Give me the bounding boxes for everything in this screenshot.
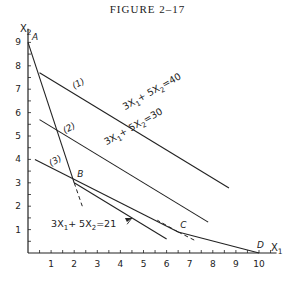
point-label-a: A [31, 32, 38, 42]
x-tick-label: 3 [94, 259, 100, 269]
y-tick-label: 1 [15, 225, 21, 235]
x-tick-label: 7 [187, 259, 193, 269]
equation-label: 3X1+ 5X2=21 [51, 218, 116, 232]
x-tick-label: 8 [210, 259, 216, 269]
y-tick-label: 2 [15, 201, 21, 211]
x-tick-label: 6 [164, 259, 170, 269]
y-tick-label: 3 [15, 178, 21, 188]
x-tick-label: 4 [118, 259, 124, 269]
constraint-number-label: (1) [70, 76, 86, 91]
x-axis-label: X1 [271, 242, 283, 256]
y-tick-label: 8 [15, 61, 21, 71]
lp-diagram: 12345678910123456789X2X1ABCD(1)3X1+ 5X2=… [0, 0, 295, 281]
line-constraint-cd [178, 232, 259, 253]
y-axis-label: X2 [20, 23, 32, 37]
x-tick-label: 1 [48, 259, 54, 269]
y-tick-label: 5 [15, 131, 21, 141]
x-tick-label: 5 [141, 259, 147, 269]
constraint-number-label: (3) [47, 153, 63, 168]
constraint-number-label: (2) [61, 120, 77, 135]
y-tick-label: 6 [15, 108, 21, 118]
y-tick-label: 7 [15, 84, 21, 94]
y-tick-label: 9 [15, 37, 21, 47]
y-tick-label: 4 [15, 154, 21, 164]
x-tick-label: 9 [233, 259, 239, 269]
dashed-extension [74, 183, 82, 206]
x-tick-label: 10 [253, 259, 265, 269]
point-label-d: D [257, 240, 264, 250]
line-3x1-5x2-21 [74, 183, 166, 239]
x-tick-label: 2 [71, 259, 77, 269]
dashed-extension [178, 232, 196, 241]
point-label-c: C [180, 220, 187, 230]
point-label-b: B [77, 169, 83, 179]
